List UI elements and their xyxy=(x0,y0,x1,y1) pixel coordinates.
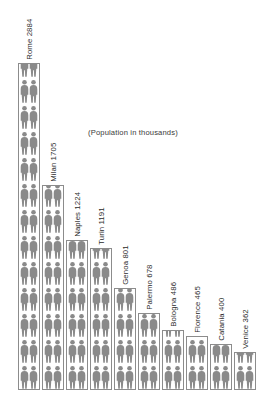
person-figure-icon xyxy=(20,63,29,77)
pictogram-row xyxy=(139,313,159,337)
person-figure-icon xyxy=(29,131,38,155)
pictogram-row xyxy=(67,363,87,389)
bar-label-milan: Milan 1705 xyxy=(50,143,58,182)
bar-group: Rome 2884 xyxy=(18,63,40,390)
bar-palermo xyxy=(138,313,160,390)
bar-group: Genoa 801 xyxy=(114,288,136,390)
pictogram-row xyxy=(43,337,63,363)
bar-label-catania: Catania 400 xyxy=(218,298,226,341)
person-figure-icon xyxy=(53,235,62,259)
pictogram-row xyxy=(211,363,231,389)
pictogram-row xyxy=(43,285,63,311)
bar-group: Milan 1705 xyxy=(42,185,64,390)
person-figure-icon xyxy=(101,313,110,337)
person-figure-icon xyxy=(53,287,62,311)
bar-catania xyxy=(210,344,232,390)
pictogram-row xyxy=(115,337,135,363)
person-figure-icon xyxy=(20,183,29,207)
pictogram-row xyxy=(19,155,39,181)
person-figure-icon xyxy=(236,352,245,363)
person-figure-icon xyxy=(44,287,53,311)
person-figure-icon xyxy=(245,365,254,389)
person-figure-icon xyxy=(140,313,149,337)
pictogram-row xyxy=(115,311,135,337)
pictogram-row xyxy=(19,259,39,285)
pictogram-row xyxy=(43,185,63,207)
person-figure-icon xyxy=(20,313,29,337)
pictogram-row xyxy=(163,363,183,389)
person-figure-icon xyxy=(101,365,110,389)
person-figure-icon xyxy=(92,261,101,285)
person-figure-icon xyxy=(53,261,62,285)
person-figure-icon xyxy=(77,313,86,337)
bar-venice xyxy=(234,352,256,390)
person-figure-icon xyxy=(221,365,230,389)
pictogram-stack xyxy=(91,248,111,389)
person-figure-icon xyxy=(29,183,38,207)
person-figure-icon xyxy=(149,365,158,389)
person-figure-icon xyxy=(44,313,53,337)
person-figure-icon xyxy=(92,313,101,337)
person-figure-icon xyxy=(77,339,86,363)
pictogram-row xyxy=(67,311,87,337)
bar-rome xyxy=(18,63,40,390)
person-figure-icon xyxy=(173,339,182,363)
person-figure-icon xyxy=(173,365,182,389)
pictogram-stack xyxy=(139,313,159,389)
bar-genoa xyxy=(114,288,136,390)
pictogram-row xyxy=(43,207,63,233)
person-figure-icon xyxy=(29,235,38,259)
pictogram-row xyxy=(19,207,39,233)
bar-group: Palermo 678 xyxy=(138,313,160,390)
bar-label-palermo: Palermo 678 xyxy=(146,265,154,310)
person-figure-icon xyxy=(20,339,29,363)
pictogram-stack xyxy=(43,185,63,389)
bar-label-florence: Florence 465 xyxy=(194,286,202,333)
bar-label-rome: Rome 2884 xyxy=(26,19,34,60)
bar-label-turin: Turin 1191 xyxy=(98,208,106,245)
person-figure-icon xyxy=(125,288,134,311)
person-figure-icon xyxy=(245,352,254,363)
person-figure-icon xyxy=(221,344,230,363)
person-figure-icon xyxy=(164,365,173,389)
pictogram-row xyxy=(43,233,63,259)
person-figure-icon xyxy=(20,261,29,285)
person-figure-icon xyxy=(29,157,38,181)
person-figure-icon xyxy=(116,339,125,363)
person-figure-icon xyxy=(125,313,134,337)
plot-area: Rome 2884Milan 1705Naples 1224Turin 1191… xyxy=(0,0,258,409)
person-figure-icon xyxy=(29,209,38,233)
person-figure-icon xyxy=(29,339,38,363)
pictogram-row xyxy=(19,233,39,259)
person-figure-icon xyxy=(140,339,149,363)
person-figure-icon xyxy=(173,330,182,337)
person-figure-icon xyxy=(101,261,110,285)
person-figure-icon xyxy=(29,63,38,77)
person-figure-icon xyxy=(116,365,125,389)
person-figure-icon xyxy=(164,339,173,363)
bar-florence xyxy=(186,336,208,390)
person-figure-icon xyxy=(197,365,206,389)
person-figure-icon xyxy=(44,235,53,259)
pictogram-row xyxy=(139,363,159,389)
pictogram-row xyxy=(91,311,111,337)
bar-turin xyxy=(90,248,112,390)
person-figure-icon xyxy=(20,79,29,103)
person-figure-icon xyxy=(53,209,62,233)
pictogram-stack xyxy=(19,63,39,389)
person-figure-icon xyxy=(212,344,221,363)
person-figure-icon xyxy=(68,287,77,311)
person-figure-icon xyxy=(92,248,101,259)
pictogram-row xyxy=(43,311,63,337)
bar-label-genoa: Genoa 801 xyxy=(122,246,130,286)
bar-group: Florence 465 xyxy=(186,336,208,390)
person-figure-icon xyxy=(68,313,77,337)
pictogram-row xyxy=(187,337,207,363)
pictogram-row xyxy=(19,311,39,337)
person-figure-icon xyxy=(68,240,77,259)
pictogram-row xyxy=(187,363,207,389)
person-figure-icon xyxy=(29,313,38,337)
bar-label-venice: Venice 362 xyxy=(242,309,250,349)
person-figure-icon xyxy=(236,365,245,389)
person-figure-icon xyxy=(116,288,125,311)
